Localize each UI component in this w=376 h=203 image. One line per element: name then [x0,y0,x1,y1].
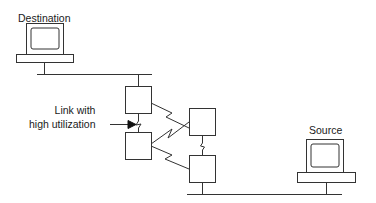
serial-link-r2-r4 [151,146,189,169]
destination-base [17,55,74,63]
source-computer-icon [298,140,356,195]
destination-screen [31,28,59,49]
link-annotation: Link with [42,104,108,116]
source-screen [311,144,339,167]
serial-link-r1-r3 [151,103,189,128]
source-label: Source [309,124,342,136]
link-annotation-line-2: high utilization [29,118,96,130]
annotation-arrowhead-icon [128,121,136,129]
router-3 [190,109,216,136]
router-1 [126,87,152,114]
link-annotation-line-1: Link with [42,104,108,116]
router-2 [126,133,152,160]
serial-link-r1-r2 [136,113,141,132]
serial-link-r3-r4 [201,135,205,155]
router-4 [190,156,216,183]
destination-label: Destination [18,12,71,24]
destination-computer-icon [17,24,74,75]
source-base [298,173,356,183]
network-diagram [0,0,376,203]
